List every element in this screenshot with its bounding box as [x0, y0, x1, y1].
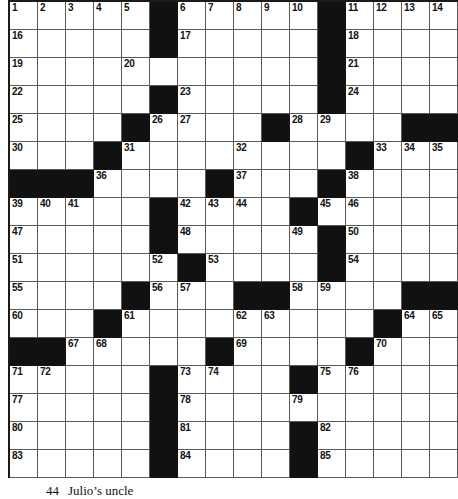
crossword-cell[interactable]: [38, 254, 66, 282]
crossword-cell[interactable]: 85: [318, 450, 346, 478]
crossword-cell[interactable]: [206, 142, 234, 170]
crossword-cell[interactable]: [430, 422, 458, 450]
crossword-cell[interactable]: 52: [150, 254, 178, 282]
crossword-cell[interactable]: [94, 394, 122, 422]
crossword-cell[interactable]: [374, 30, 402, 58]
crossword-cell[interactable]: 54: [346, 254, 374, 282]
crossword-cell[interactable]: [122, 394, 150, 422]
crossword-cell[interactable]: 70: [374, 338, 402, 366]
crossword-cell[interactable]: 44: [234, 198, 262, 226]
crossword-cell[interactable]: 47: [10, 226, 38, 254]
crossword-cell[interactable]: [206, 58, 234, 86]
crossword-cell[interactable]: [430, 58, 458, 86]
crossword-cell[interactable]: 18: [346, 30, 374, 58]
crossword-cell[interactable]: [122, 254, 150, 282]
crossword-cell[interactable]: [290, 58, 318, 86]
crossword-cell[interactable]: 4: [94, 2, 122, 30]
crossword-cell[interactable]: [122, 198, 150, 226]
crossword-cell[interactable]: 32: [234, 142, 262, 170]
crossword-cell[interactable]: [38, 310, 66, 338]
crossword-cell[interactable]: [178, 142, 206, 170]
crossword-cell[interactable]: [402, 198, 430, 226]
crossword-cell[interactable]: [122, 226, 150, 254]
crossword-cell[interactable]: 63: [262, 310, 290, 338]
crossword-cell[interactable]: 48: [178, 226, 206, 254]
crossword-cell[interactable]: [122, 86, 150, 114]
crossword-cell[interactable]: [374, 450, 402, 478]
crossword-cell[interactable]: 34: [402, 142, 430, 170]
crossword-cell[interactable]: [66, 114, 94, 142]
crossword-cell[interactable]: [290, 254, 318, 282]
crossword-cell[interactable]: [402, 254, 430, 282]
crossword-cell[interactable]: 5: [122, 2, 150, 30]
crossword-cell[interactable]: [374, 198, 402, 226]
crossword-cell[interactable]: 37: [234, 170, 262, 198]
crossword-cell[interactable]: [150, 58, 178, 86]
crossword-cell[interactable]: [262, 422, 290, 450]
crossword-cell[interactable]: 64: [402, 310, 430, 338]
crossword-cell[interactable]: 67: [66, 338, 94, 366]
crossword-cell[interactable]: [290, 170, 318, 198]
crossword-cell[interactable]: [402, 338, 430, 366]
crossword-cell[interactable]: 28: [290, 114, 318, 142]
crossword-cell[interactable]: [318, 310, 346, 338]
crossword-cell[interactable]: [234, 114, 262, 142]
crossword-cell[interactable]: 21: [346, 58, 374, 86]
crossword-grid[interactable]: 1234567891011121314161718192021222324252…: [10, 2, 458, 478]
crossword-cell[interactable]: [234, 58, 262, 86]
crossword-cell[interactable]: 14: [430, 2, 458, 30]
crossword-cell[interactable]: [234, 422, 262, 450]
clue-item[interactable]: 44Julio’s uncle: [0, 483, 444, 499]
crossword-cell[interactable]: 51: [10, 254, 38, 282]
crossword-cell[interactable]: 22: [10, 86, 38, 114]
crossword-cell[interactable]: [94, 254, 122, 282]
crossword-cell[interactable]: [38, 58, 66, 86]
crossword-cell[interactable]: [122, 338, 150, 366]
crossword-cell[interactable]: [38, 422, 66, 450]
crossword-cell[interactable]: [66, 422, 94, 450]
crossword-cell[interactable]: [374, 282, 402, 310]
crossword-cell[interactable]: 69: [234, 338, 262, 366]
crossword-cell[interactable]: [374, 366, 402, 394]
crossword-cell[interactable]: [38, 394, 66, 422]
crossword-cell[interactable]: 27: [178, 114, 206, 142]
crossword-cell[interactable]: 72: [38, 366, 66, 394]
crossword-cell[interactable]: 16: [10, 30, 38, 58]
crossword-cell[interactable]: [402, 394, 430, 422]
crossword-cell[interactable]: [234, 86, 262, 114]
crossword-cell[interactable]: [430, 450, 458, 478]
crossword-cell[interactable]: [234, 366, 262, 394]
crossword-cell[interactable]: [234, 226, 262, 254]
crossword-cell[interactable]: 9: [262, 2, 290, 30]
crossword-cell[interactable]: [430, 86, 458, 114]
crossword-cell[interactable]: [262, 86, 290, 114]
crossword-cell[interactable]: [38, 282, 66, 310]
crossword-cell[interactable]: [122, 170, 150, 198]
crossword-cell[interactable]: 49: [290, 226, 318, 254]
crossword-cell[interactable]: [262, 58, 290, 86]
crossword-cell[interactable]: [206, 86, 234, 114]
crossword-cell[interactable]: 30: [10, 142, 38, 170]
crossword-cell[interactable]: [374, 86, 402, 114]
crossword-cell[interactable]: [374, 114, 402, 142]
crossword-cell[interactable]: [150, 142, 178, 170]
crossword-cell[interactable]: 10: [290, 2, 318, 30]
crossword-cell[interactable]: 43: [206, 198, 234, 226]
crossword-cell[interactable]: 6: [178, 2, 206, 30]
crossword-cell[interactable]: [38, 142, 66, 170]
crossword-cell[interactable]: [66, 254, 94, 282]
crossword-cell[interactable]: 76: [346, 366, 374, 394]
crossword-cell[interactable]: [430, 254, 458, 282]
crossword-cell[interactable]: [122, 422, 150, 450]
crossword-cell[interactable]: [66, 86, 94, 114]
crossword-cell[interactable]: 20: [122, 58, 150, 86]
crossword-cell[interactable]: 79: [290, 394, 318, 422]
crossword-cell[interactable]: 55: [10, 282, 38, 310]
crossword-cell[interactable]: [38, 86, 66, 114]
crossword-cell[interactable]: [374, 394, 402, 422]
crossword-cell[interactable]: [206, 226, 234, 254]
crossword-cell[interactable]: [346, 310, 374, 338]
crossword-cell[interactable]: 12: [374, 2, 402, 30]
crossword-cell[interactable]: [38, 450, 66, 478]
crossword-cell[interactable]: 33: [374, 142, 402, 170]
